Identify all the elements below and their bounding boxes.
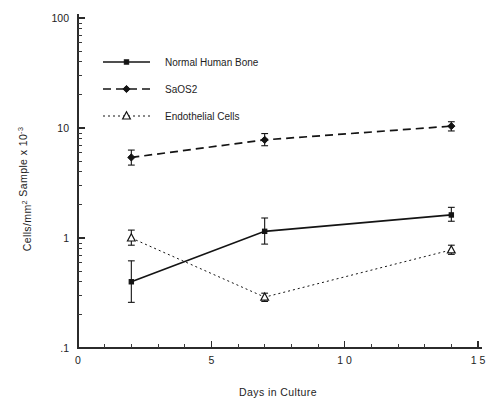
data-point-marker xyxy=(449,213,453,217)
x-tick-label: 1 5 xyxy=(471,354,486,366)
x-tick-label: 0 xyxy=(75,354,81,366)
x-tick-label: 1 0 xyxy=(337,354,352,366)
legend-label: Endothelial Cells xyxy=(165,111,240,122)
chart-figure: .1110100 051 01 5 Normal Human BoneSaOS2… xyxy=(0,0,501,408)
y-tick-label: 100 xyxy=(51,12,69,24)
y-tick-label: .1 xyxy=(60,342,69,354)
legend-label: SaOS2 xyxy=(165,84,198,95)
y-tick-label: 10 xyxy=(57,122,69,134)
log-line-chart: .1110100 051 01 5 Normal Human BoneSaOS2… xyxy=(0,0,501,408)
y-tick-label: 1 xyxy=(63,232,69,244)
x-axis-title: Days in Culture xyxy=(239,386,317,398)
x-tick-label: 5 xyxy=(208,354,214,366)
data-point-marker xyxy=(129,280,133,284)
legend-label: Normal Human Bone xyxy=(165,57,259,68)
data-point-marker xyxy=(262,229,266,233)
data-point-marker xyxy=(124,60,128,64)
